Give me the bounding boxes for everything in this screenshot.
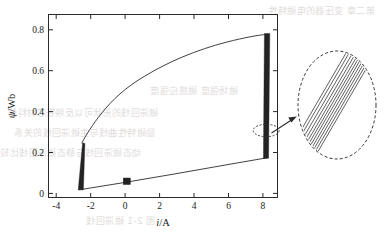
lower-branch-curve (81, 158, 268, 190)
right-minor-loop-band (263, 34, 269, 159)
y-axis-title: ψ/Wb (6, 94, 17, 119)
hysteresis-chart: -4 -2 0 2 4 6 8 0 0.2 0.4 0.6 0.8 i/A (0, 0, 388, 240)
x-axis-ticks (56, 15, 263, 198)
y-tick-label: 0 (39, 189, 44, 199)
x-tick-label: 8 (261, 201, 266, 211)
y-axis-unit: Wb (6, 94, 17, 109)
x-tick-label: 0 (123, 201, 128, 211)
zoom-inset (298, 41, 376, 159)
x-tick-label: -4 (52, 201, 60, 211)
origin-marker-block (123, 178, 130, 185)
x-tick-label: 6 (226, 201, 231, 211)
chart-svg: -4 -2 0 2 4 6 8 0 0.2 0.4 0.6 0.8 i/A (0, 0, 388, 240)
inset-minor-loop-lines (300, 41, 368, 156)
y-tick-label: 0.4 (32, 107, 44, 117)
x-tick-label: -2 (87, 201, 95, 211)
callout-arrow (272, 117, 297, 134)
left-minor-loop-band (78, 143, 85, 190)
x-tick-labels: -4 -2 0 2 4 6 8 (52, 201, 265, 211)
figure-root: 第二章 变压器的电磁特性 磁场强度 磁感应强度 磁滞回线的形状可以反映铁芯材料的… (0, 0, 388, 240)
y-tick-label: 0.6 (32, 66, 44, 76)
x-tick-label: 4 (192, 201, 197, 211)
y-tick-label: 0.8 (32, 25, 44, 35)
x-axis-title: i/A (156, 217, 170, 228)
upper-branch-curve (82, 34, 268, 143)
y-tick-labels: 0 0.2 0.4 0.6 0.8 (32, 25, 44, 199)
x-axis-unit: A (162, 217, 170, 228)
y-tick-label: 0.2 (32, 148, 44, 158)
x-tick-label: 2 (157, 201, 162, 211)
